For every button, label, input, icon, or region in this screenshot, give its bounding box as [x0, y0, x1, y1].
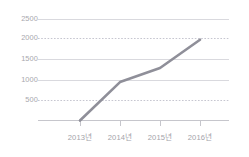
- x-axis: 2013년 2014년 2015년 2016년: [0, 0, 249, 157]
- x-axis-label-2016: 2016년: [174, 133, 226, 142]
- line-chart: 2500 2000 1500 1000 500 2013년 2014년 2015…: [0, 0, 249, 157]
